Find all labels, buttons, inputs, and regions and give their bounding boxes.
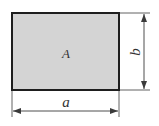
width-label: a <box>62 94 70 110</box>
area-label: A <box>61 46 70 61</box>
height-label: b <box>127 48 143 56</box>
rectangle-diagram: A a b <box>0 0 159 126</box>
